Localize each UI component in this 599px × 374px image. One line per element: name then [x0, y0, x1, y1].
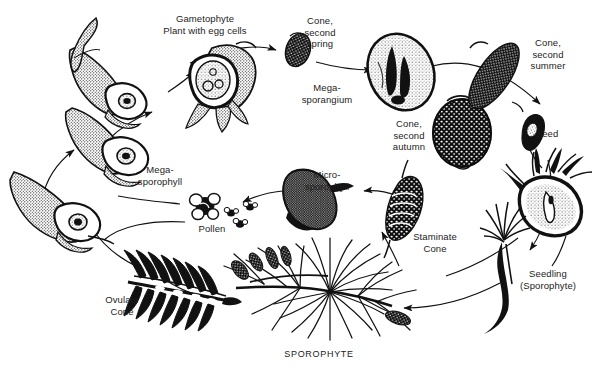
label-cone-second-summer: Cone, second summer	[518, 37, 578, 72]
arrow-pollen-to-ovule	[104, 222, 185, 240]
megasporangium-section	[357, 25, 445, 120]
label-seedling: Seedling (Sporophyte)	[512, 268, 584, 291]
label-ovulate-cone: Ovulate Cone	[96, 294, 148, 317]
label-megasporangium: Mega- sporangium	[295, 82, 359, 105]
label-gametophyte: Gametophyte Plant with egg cells	[146, 13, 264, 36]
mature-pine-branch	[224, 238, 416, 340]
label-cone-second-autumn: Cone, second autumn	[383, 118, 435, 153]
label-staminate-cone: Staminate Cone	[405, 231, 465, 254]
germinating-seed-section	[500, 148, 592, 266]
arrow-cone-spring-to-megasporangium	[316, 62, 372, 70]
arrow-pollen-feed-left	[118, 196, 180, 204]
megasporophyll-with-ovule-stage-5	[10, 172, 114, 252]
label-pollen: Pollen	[192, 223, 232, 235]
arrow-to-sporophyte-branch	[404, 283, 500, 308]
label-sporophyte: SPOROPHYTE	[276, 349, 362, 361]
ovulate-cone-specimen	[124, 250, 242, 331]
label-megasporophyll: Mega- sporophyll	[129, 164, 191, 187]
pine-life-cycle-figure: Gametophyte Plant with egg cells Cone, s…	[0, 0, 599, 374]
label-microsporophyll: Micro- sporophyll	[297, 169, 357, 192]
label-cone-second-spring: Cone, second spring	[296, 15, 344, 50]
gametophyte-with-egg-cells	[186, 42, 256, 132]
label-seed: Seed	[530, 128, 564, 140]
